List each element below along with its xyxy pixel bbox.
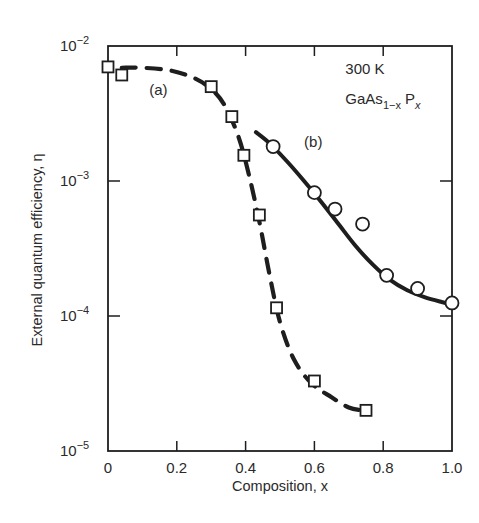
- y-axis-label: External quantum efficiency, η: [29, 154, 45, 347]
- circle-marker: [446, 296, 459, 309]
- y-tick-label: 10−4: [60, 304, 89, 324]
- square-marker: [116, 69, 127, 80]
- square-marker: [254, 209, 265, 220]
- annotation-label: (a): [149, 81, 167, 98]
- square-marker: [271, 302, 282, 313]
- y-axis-ticks: 10−210−310−410−5: [60, 34, 452, 459]
- circle-marker: [411, 282, 424, 295]
- circle-marker: [380, 269, 393, 282]
- y-tick-label: 10−3: [60, 169, 89, 189]
- dashed-curve-a: [122, 68, 363, 411]
- annotation-label: (b): [304, 133, 322, 150]
- solid-curve-b: [256, 132, 452, 304]
- square-marker: [206, 81, 217, 92]
- annotation-label: 300 K: [345, 60, 384, 77]
- x-tick-label: 0.8: [373, 459, 394, 476]
- x-tick-label: 0: [104, 459, 112, 476]
- fit-curves: [122, 68, 452, 411]
- square-marker: [309, 376, 320, 387]
- x-tick-label: 1.0: [442, 459, 463, 476]
- y-tick-label: 10−2: [60, 34, 89, 54]
- square-marker: [361, 405, 372, 416]
- data-markers: [103, 61, 459, 415]
- x-tick-label: 0.4: [235, 459, 256, 476]
- square-marker: [103, 61, 114, 72]
- circle-marker: [308, 186, 321, 199]
- square-marker: [226, 111, 237, 122]
- square-marker: [238, 150, 249, 161]
- circle-marker: [329, 203, 342, 216]
- x-axis-label: Composition, x: [232, 478, 329, 494]
- circle-marker: [267, 140, 280, 153]
- annotation-label: GaAs1−x Px: [345, 90, 421, 111]
- annotations: 300 KGaAs1−x Px(a)(b): [149, 60, 421, 150]
- chart: 00.20.40.60.81.0 10−210−310−410−5 300 KG…: [0, 0, 479, 523]
- x-axis-ticks: 00.20.40.60.81.0: [104, 46, 463, 476]
- y-tick-label: 10−5: [60, 439, 89, 459]
- x-tick-label: 0.2: [166, 459, 187, 476]
- x-tick-label: 0.6: [304, 459, 325, 476]
- circle-marker: [356, 218, 369, 231]
